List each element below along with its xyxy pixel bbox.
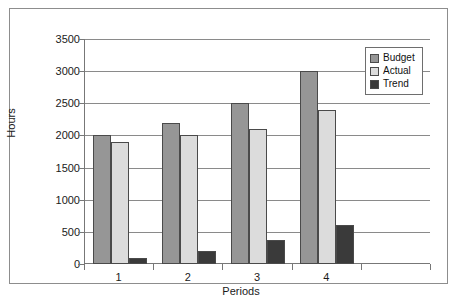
- x-axis-tick-label: 1: [99, 271, 139, 283]
- bar-actual-2: [180, 135, 198, 264]
- bar-budget-1: [93, 135, 111, 264]
- y-axis-tick-mark: [78, 39, 84, 40]
- y-axis-tick-mark: [78, 232, 84, 233]
- bar-trend-2: [198, 251, 216, 264]
- y-axis-tick-mark: [78, 200, 84, 201]
- y-axis-tick-labels: 0500100015002000250030003500: [36, 9, 80, 296]
- y-axis-tick-mark: [78, 71, 84, 72]
- y-axis-tick-label: 1500: [40, 162, 80, 173]
- bar-budget-4: [300, 71, 318, 264]
- x-axis-tick-mark: [361, 264, 362, 270]
- bar-budget-2: [162, 123, 180, 264]
- x-axis-tick-mark: [430, 264, 431, 270]
- bar-actual-1: [111, 142, 129, 264]
- legend-item: Trend: [370, 78, 418, 90]
- y-axis-tick-mark: [78, 135, 84, 136]
- legend-label: Actual: [383, 66, 411, 76]
- y-axis-tick-label: 0: [40, 259, 80, 270]
- x-axis-tick-mark: [84, 264, 85, 270]
- legend-swatch-budget-icon: [370, 54, 379, 63]
- legend-swatch-trend-icon: [370, 80, 379, 89]
- x-axis-title: Periods: [10, 285, 462, 296]
- legend-item: Budget: [370, 52, 418, 64]
- bar-actual-4: [318, 110, 336, 264]
- bar-actual-3: [249, 129, 267, 264]
- chart-legend: Budget Actual Trend: [365, 47, 423, 95]
- y-axis-tick-label: 1000: [40, 194, 80, 205]
- y-axis-title: Hours: [5, 108, 17, 137]
- x-axis-tick-label: 2: [168, 271, 208, 283]
- y-axis-tick-label: 2000: [40, 130, 80, 141]
- legend-label: Budget: [383, 53, 415, 63]
- bar-trend-1: [129, 258, 147, 264]
- y-axis-tick-label: 500: [40, 226, 80, 237]
- y-axis-tick-label: 3500: [40, 34, 80, 45]
- bar-trend-4: [336, 225, 354, 264]
- bar-trend-3: [267, 240, 285, 264]
- y-axis-tick-label: 3000: [40, 66, 80, 77]
- bar-budget-3: [231, 103, 249, 264]
- legend-item: Actual: [370, 65, 418, 77]
- x-axis-tick-mark: [222, 264, 223, 270]
- x-axis-tick-mark: [292, 264, 293, 270]
- y-axis-tick-mark: [78, 264, 84, 265]
- x-axis-tick-mark: [153, 264, 154, 270]
- legend-swatch-actual-icon: [370, 67, 379, 76]
- y-axis-tick-mark: [78, 168, 84, 169]
- chart-frame: 0500100015002000250030003500 Hours 1234 …: [9, 8, 448, 284]
- legend-label: Trend: [383, 79, 409, 89]
- x-axis-tick-label: 4: [306, 271, 346, 283]
- y-axis-tick-label: 2500: [40, 98, 80, 109]
- x-axis-tick-label: 3: [237, 271, 277, 283]
- y-axis-tick-mark: [78, 103, 84, 104]
